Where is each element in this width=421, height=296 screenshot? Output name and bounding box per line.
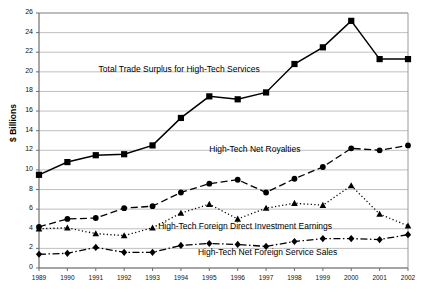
data-point-marker <box>121 151 127 157</box>
data-point-marker <box>206 201 213 207</box>
data-point-marker <box>150 203 156 209</box>
data-point-marker <box>149 249 155 256</box>
data-point-marker <box>348 18 354 24</box>
data-point-marker <box>235 177 241 183</box>
data-point-marker <box>291 238 297 245</box>
series-annotation-label: High-Tech Net Foreign Service Sales <box>198 247 337 257</box>
data-point-marker <box>405 143 411 149</box>
data-point-marker <box>405 56 411 62</box>
data-point-marker <box>292 176 298 182</box>
data-point-marker <box>377 147 383 153</box>
chart-container: $ Billions 02468101214161820222426 19891… <box>0 0 421 296</box>
data-point-marker <box>263 190 269 196</box>
data-point-marker <box>348 145 354 151</box>
data-point-marker <box>64 250 70 257</box>
data-point-marker <box>149 142 155 148</box>
data-point-marker <box>36 172 42 178</box>
data-point-marker <box>178 115 184 121</box>
data-point-marker <box>121 205 127 211</box>
data-point-marker <box>206 240 212 247</box>
data-point-marker <box>235 96 241 102</box>
data-point-marker <box>206 93 212 99</box>
data-point-marker <box>36 251 42 258</box>
data-point-marker <box>348 182 355 188</box>
data-point-marker <box>93 244 99 251</box>
data-point-marker <box>178 210 185 216</box>
data-point-marker <box>348 235 354 242</box>
series-annotation-label: High-Tech Net Royalties <box>209 144 300 154</box>
data-point-marker <box>320 44 326 50</box>
data-point-marker <box>93 152 99 158</box>
data-point-marker <box>320 235 326 242</box>
data-point-marker <box>149 224 156 230</box>
data-point-marker <box>64 159 70 165</box>
data-point-marker <box>377 236 383 243</box>
data-point-marker <box>64 216 70 222</box>
data-point-marker <box>320 202 327 208</box>
data-point-marker <box>206 181 212 187</box>
data-point-marker <box>320 164 326 170</box>
data-point-marker <box>377 56 383 62</box>
data-point-marker <box>291 61 297 67</box>
data-point-marker <box>93 215 99 221</box>
data-point-marker <box>405 231 411 238</box>
data-point-marker <box>263 89 269 95</box>
data-point-marker <box>121 249 127 256</box>
data-point-marker <box>178 190 184 196</box>
series-annotation-label: Total Trade Surplus for High-Tech Servic… <box>99 64 260 74</box>
series-annotation-label: High-Tech Foreign Direct Investment Earn… <box>158 221 332 231</box>
